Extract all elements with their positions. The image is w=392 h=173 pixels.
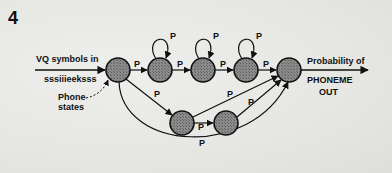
edge-label-s1-s2: P [177, 59, 183, 69]
state-node-0 [106, 58, 130, 82]
loop-label-s3: P [256, 31, 262, 41]
output-label-1: Probability of [307, 56, 365, 66]
loop-label-s1: P [170, 31, 176, 41]
edge-label-l1-s4: P [227, 89, 233, 99]
self-loops [153, 39, 254, 59]
edge-label-s3-s4: P [263, 59, 269, 69]
state-node-3 [234, 58, 258, 82]
output-label-3: OUT [319, 87, 338, 97]
input-sequence: sssiiieeksss [44, 74, 97, 84]
state-node-2 [191, 58, 215, 82]
state-node-lower-1 [170, 111, 194, 135]
edge-label-l1-l2: P [198, 122, 204, 132]
annotation-label-1: Phone [58, 92, 86, 102]
edge-label-s0-s1: P [134, 59, 140, 69]
edge-label-l2-s4: P [248, 97, 254, 107]
annotation-label-2: states [58, 102, 84, 112]
output-label-2: PHONEME [307, 75, 353, 85]
edge-label-s0-s4: P [199, 138, 205, 148]
state-node-lower-2 [214, 111, 238, 135]
state-node-output [277, 58, 301, 82]
input-label: VQ symbols in [36, 54, 99, 64]
edge-label-s0-l1: P [154, 89, 160, 99]
loop-label-s2: P [213, 31, 219, 41]
state-node-1 [148, 58, 172, 82]
hmm-phoneme-diagram: 4 [0, 0, 392, 173]
edge-label-s2-s3: P [220, 59, 226, 69]
